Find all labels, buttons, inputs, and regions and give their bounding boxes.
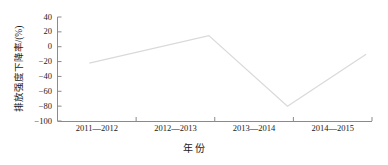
chart-figure: 排放强度下降率/(%) 年 份 40200−20−40−60−80−100 20… [0, 0, 388, 165]
plot-area [0, 0, 388, 165]
data-line-series-1 [89, 36, 366, 107]
y-axis-ticks [58, 17, 62, 121]
axes [58, 17, 373, 122]
x-axis-ticks [58, 117, 373, 121]
